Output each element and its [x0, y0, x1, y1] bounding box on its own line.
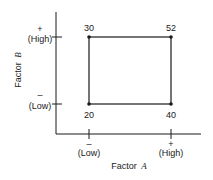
y-low-label: (Low)	[29, 101, 52, 111]
y-high-sign: +	[37, 24, 42, 34]
factorial-design-diagram: 30 52 20 40 + (High) – (Low) Factor B – …	[0, 0, 213, 180]
x-axis-title: Factor A	[111, 161, 147, 171]
corner-point-high-a-high-b	[169, 35, 173, 39]
corner-point-low-a-high-b	[87, 35, 91, 39]
x-axis-title-var: A	[140, 161, 147, 171]
design-square	[89, 37, 171, 104]
corner-value-high-a-low-b: 40	[166, 110, 176, 120]
y-high-label: (High)	[28, 34, 53, 44]
corner-value-low-a-high-b: 30	[84, 23, 94, 33]
x-high-label: (High)	[159, 148, 184, 158]
svg-text:Factor B: Factor B	[13, 52, 23, 88]
corner-point-high-a-low-b	[169, 102, 173, 106]
corner-value-low-a-low-b: 20	[84, 110, 94, 120]
y-low-sign: –	[37, 90, 42, 100]
y-axis-title-var: B	[13, 52, 23, 58]
x-low-label: (Low)	[78, 148, 101, 158]
corner-point-low-a-low-b	[87, 102, 91, 106]
corner-value-high-a-high-b: 52	[166, 23, 176, 33]
y-axis-title: Factor B	[13, 52, 23, 88]
x-axis-title-text: Factor	[111, 161, 137, 171]
y-axis-title-text: Factor	[13, 62, 23, 88]
